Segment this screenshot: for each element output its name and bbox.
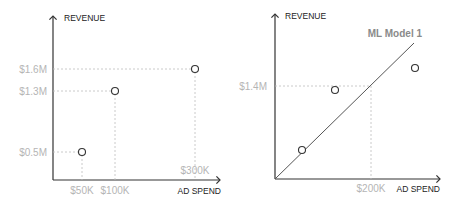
ml-model-label: ML Model 1	[368, 28, 423, 39]
tick-1.4m: $1.4M	[239, 81, 267, 92]
right-y-axis-label: REVENUE	[285, 11, 326, 21]
tick-0.5m: $0.5M	[19, 147, 47, 158]
data-point-50k	[299, 147, 306, 154]
data-point-300k	[412, 65, 419, 72]
tick-1.3m: $1.3M	[19, 86, 47, 97]
left-x-axis-label: AD SPEND	[178, 186, 221, 196]
data-point-100k	[332, 87, 339, 94]
data-point-100k	[112, 88, 119, 95]
data-point-50k	[79, 149, 86, 156]
left-y-axis-label: REVENUE	[64, 13, 105, 23]
tick-200k: $200K	[357, 183, 386, 194]
charts-canvas: REVENUE AD SPEND $1.6M $1.3M $0.5M $50K …	[0, 0, 457, 203]
data-point-300k	[192, 66, 199, 73]
left-chart: REVENUE AD SPEND $1.6M $1.3M $0.5M $50K …	[19, 13, 221, 196]
tick-50k: $50K	[70, 185, 94, 196]
tick-100k: $100K	[101, 185, 130, 196]
tick-300k: $300K	[181, 165, 210, 176]
right-chart: REVENUE AD SPEND $1.4M $200K ML Model 1	[239, 11, 440, 194]
tick-1.6m: $1.6M	[19, 64, 47, 75]
right-x-axis-label: AD SPEND	[397, 184, 440, 194]
ml-model-line	[275, 43, 414, 179]
